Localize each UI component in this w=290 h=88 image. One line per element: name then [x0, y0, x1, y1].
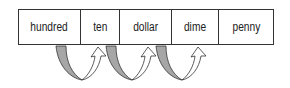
- arrow-dollar-to-dime-icon: [156, 46, 206, 80]
- arrow-ten-to-dollar-icon: [106, 46, 156, 80]
- arrow-hundred-to-ten-icon: [56, 46, 106, 80]
- exchange-arrows: [0, 0, 290, 88]
